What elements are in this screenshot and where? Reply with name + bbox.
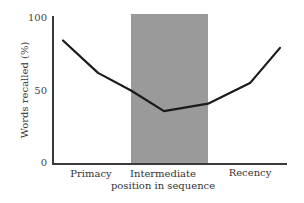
y-tick-0: 0 bbox=[41, 157, 47, 168]
serial-position-chart: 100 50 0 Words recalled (%) Primacy Inte… bbox=[0, 0, 304, 203]
category-intermediate-line2: position in sequence bbox=[111, 180, 215, 191]
category-primacy: Primacy bbox=[70, 168, 112, 179]
y-tick-50: 50 bbox=[34, 85, 47, 96]
y-axis-title: Words recalled (%) bbox=[19, 42, 30, 139]
category-intermediate-line1: Intermediate bbox=[130, 168, 196, 179]
intermediate-shaded-region bbox=[131, 14, 208, 163]
y-tick-100: 100 bbox=[28, 12, 47, 23]
category-recency: Recency bbox=[229, 167, 272, 178]
